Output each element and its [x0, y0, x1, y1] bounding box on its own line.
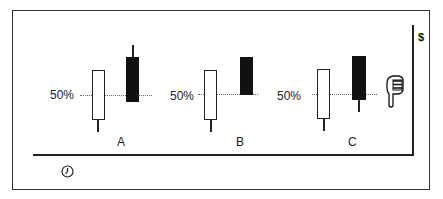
pattern-label-c: C — [348, 135, 357, 149]
black-candle-a — [126, 57, 139, 102]
lower-wick-c — [323, 119, 325, 131]
upper-wick-a — [132, 45, 134, 57]
pattern-label-a: A — [117, 135, 125, 149]
black-candle-c — [352, 56, 366, 100]
lower-wick-black-c — [358, 100, 360, 112]
midpoint-line-a — [80, 95, 152, 96]
price-axis — [412, 25, 414, 156]
clock-icon — [61, 165, 74, 178]
lower-wick-a — [97, 120, 99, 132]
pattern-label-b: B — [236, 135, 244, 149]
diagram-frame — [12, 10, 430, 190]
white-candle-b — [204, 70, 217, 120]
white-candle-a — [92, 70, 105, 120]
hand-pointing-down-icon — [384, 73, 406, 109]
price-axis-label: $ — [418, 31, 424, 43]
black-candle-b — [240, 57, 253, 95]
white-candle-c — [317, 69, 330, 119]
pct-label-c: 50% — [277, 89, 301, 103]
lower-wick-b — [210, 120, 212, 132]
time-axis — [33, 154, 414, 156]
pct-label-b: 50% — [170, 89, 194, 103]
pct-label-a: 50% — [50, 88, 74, 102]
